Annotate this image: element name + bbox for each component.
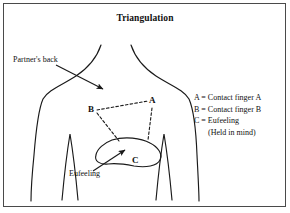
figure-canvas: Triangulation Partner's back A B C Eufee…	[0, 0, 290, 213]
partners-back-leader-arrow	[56, 65, 103, 89]
torso-left-inner-v	[62, 134, 78, 200]
legend-row-a: A = Contact finger A	[194, 93, 261, 102]
legend-row-c: C = Eufeeling	[194, 116, 261, 125]
figure-title: Triangulation	[0, 14, 290, 24]
partners-back-label: Partner's back	[13, 56, 58, 64]
legend-row-c-note: (Held in mind)	[194, 128, 261, 137]
dashed-line-a-to-c	[148, 108, 152, 140]
legend-row-b: B = Contact finger B	[194, 105, 261, 114]
point-c-label: C	[132, 156, 139, 165]
torso-right-outline	[131, 45, 199, 201]
point-b-label: B	[88, 105, 94, 114]
legend: A = Contact finger A B = Contact finger …	[194, 93, 261, 137]
torso-right-inner-v	[156, 134, 172, 200]
point-a-label: A	[149, 96, 156, 105]
eufeeling-label: Eufeeling	[69, 170, 100, 178]
dashed-line-b-to-a	[97, 101, 148, 110]
dashed-line-b-to-c	[97, 113, 119, 141]
eufeeling-leader-arrow	[93, 150, 125, 171]
